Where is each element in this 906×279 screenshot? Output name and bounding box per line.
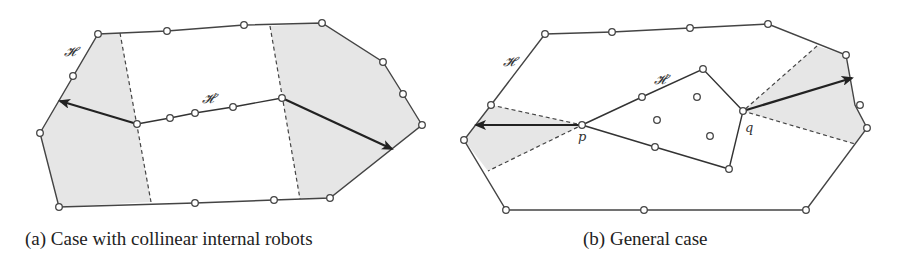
- panel-a-caption: (a) Case with collinear internal robots: [25, 228, 313, 250]
- panel-b-outer-hull-label: 𝓗: [503, 54, 520, 69]
- panel-b-diagram: 𝓗 𝓗′ p q: [461, 21, 871, 214]
- panel-b-point-q-label: q: [745, 120, 753, 135]
- panel-b-point-p-label: p: [578, 129, 587, 144]
- panel-a-left-shaded-region: [40, 33, 151, 207]
- panel-b-left-shaded-wedge: [464, 105, 582, 171]
- panel-a-inner-hull-label: 𝓗′: [202, 91, 219, 106]
- panel-a-outer-hull-label: 𝓗: [64, 44, 81, 59]
- panel-b-caption: (b) General case: [583, 228, 707, 250]
- panel-a-right-shaded-region: [270, 23, 422, 199]
- panel-a-diagram: 𝓗 𝓗′: [37, 20, 426, 211]
- panel-b-inner-hull-label: 𝓗′: [654, 72, 671, 87]
